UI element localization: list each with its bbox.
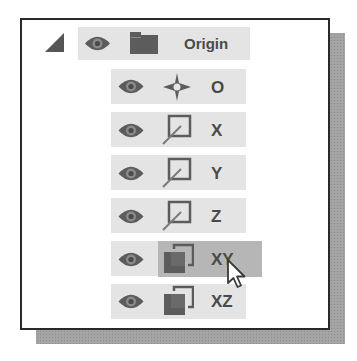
tree-row-y[interactable]: Y [111,155,246,190]
axis-icon [161,200,193,232]
eye-icon[interactable] [117,207,145,226]
origin-point-icon [163,73,191,101]
eye-icon[interactable] [117,292,145,311]
eye-icon[interactable] [84,34,111,53]
eye-icon[interactable] [117,77,145,96]
selected-highlight-xy[interactable]: XY [158,241,262,277]
tree-label-xy: XY [211,251,234,268]
tree-label-o: O [211,79,224,96]
tree-row-xz[interactable]: XZ [111,284,246,319]
tree-label-xz: XZ [211,293,233,310]
collapse-triangle-icon[interactable] [44,32,65,53]
tree-row-o[interactable]: O [111,69,246,104]
tree-row-x[interactable]: X [111,112,246,147]
eye-icon[interactable] [117,121,145,140]
folder-icon [130,32,158,54]
tree-row-z[interactable]: Z [111,198,246,233]
plane-icon [162,243,194,275]
tree-label-origin: Origin [184,36,228,51]
tree-row-origin[interactable]: Origin [78,27,250,60]
axis-icon [161,157,193,189]
tree-label-x: X [211,122,222,139]
eye-icon[interactable] [117,250,145,269]
axis-icon [161,114,193,146]
tree-label-z: Z [211,208,221,225]
tree-label-y: Y [211,165,222,182]
eye-icon[interactable] [117,164,145,183]
plane-icon [162,285,194,317]
